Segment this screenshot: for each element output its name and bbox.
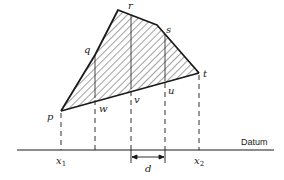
label-r: r — [128, 0, 134, 11]
label-t: t — [203, 68, 208, 79]
dimension-d — [131, 150, 165, 163]
label-d: d — [145, 163, 151, 174]
datum-label: Datum — [241, 137, 268, 147]
label-q: q — [84, 44, 90, 55]
label-x1: x1 — [56, 155, 66, 168]
label-u: u — [168, 85, 174, 96]
label-x2: x2 — [194, 155, 204, 168]
label-p: p — [47, 111, 54, 122]
label-v: v — [134, 94, 140, 105]
hatched-area — [61, 10, 199, 111]
diagram-canvas: p q r s t w v u Datum x1 x2 d — [0, 0, 284, 180]
label-s: s — [166, 24, 171, 35]
label-w: w — [99, 103, 108, 114]
